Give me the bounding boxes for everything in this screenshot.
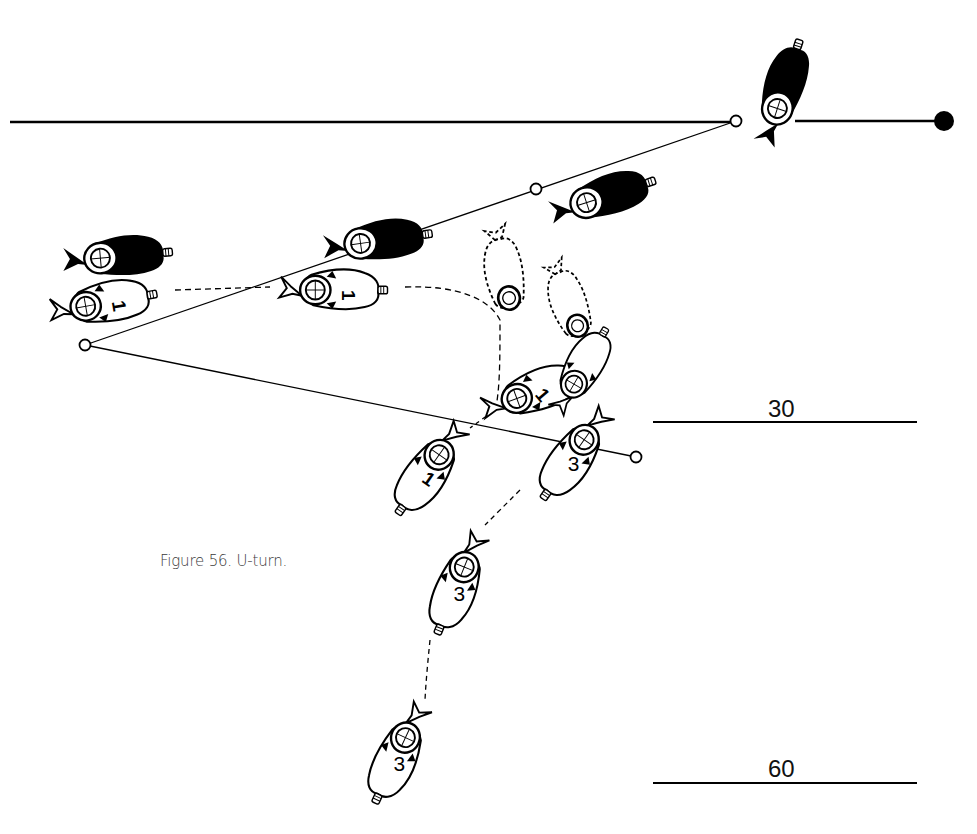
diver-white-1-mid: 1 <box>279 269 387 309</box>
diver-white-3-descending: 3 <box>419 526 496 641</box>
waypoint-mid <box>531 184 542 195</box>
diver-marker: 3 <box>454 582 466 605</box>
figure-caption: Figure 56. U-turn. <box>160 552 287 570</box>
scale-label-30: 30 <box>768 395 795 423</box>
waypoint-origin <box>80 340 91 351</box>
diver-marker: 3 <box>568 452 580 475</box>
diver-ghost-2 <box>536 254 597 342</box>
diver-black-start <box>61 231 174 280</box>
diver-white-1-return: 1 <box>382 414 477 525</box>
diver-white-1-start: 1 <box>47 274 161 332</box>
diver-black-mid <box>320 213 435 268</box>
diver-black-upper <box>544 161 661 233</box>
diver-ghost-1 <box>477 222 529 313</box>
waypoint-top <box>731 116 742 127</box>
u-turn-diagram: 1 1 1 1 3 3 3 <box>0 0 977 834</box>
diver-white-3-turned: 3 <box>527 399 622 510</box>
diver-black-top <box>746 33 818 150</box>
waypoint-end <box>631 452 642 463</box>
diver-marker: 1 <box>338 290 359 301</box>
scale-label-60: 60 <box>768 755 795 783</box>
diver-white-3-return: 3 <box>358 697 440 812</box>
end-marker-filled <box>934 111 954 131</box>
diver-marker: 3 <box>393 752 405 775</box>
